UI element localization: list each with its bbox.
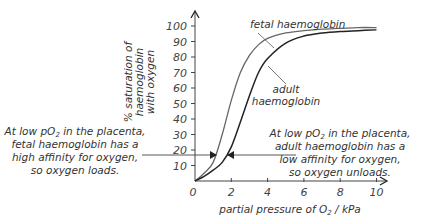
y-tick-label: 80 — [173, 51, 187, 64]
y-tick-label: 100 — [166, 20, 187, 33]
y-tick-label: 30 — [173, 129, 187, 142]
svg-text:so oxygen unloads.: so oxygen unloads. — [289, 166, 391, 178]
svg-text:low affinity for oxygen,: low affinity for oxygen, — [279, 153, 400, 165]
adult-leader-line — [268, 66, 286, 84]
right-annotation: At low pO2 in the placenta, adult haemog… — [228, 127, 410, 178]
y-tick-label: 40 — [173, 113, 187, 126]
y-tick-label: 10 — [173, 160, 187, 173]
oxygen-dissociation-chart: 102030405060708090100 0246810 % saturati… — [0, 0, 432, 220]
x-tick-label: 4 — [264, 186, 271, 199]
x-tick-label: 8 — [337, 186, 344, 199]
x-axis-title: partial pressure of O2 / kPa — [218, 203, 361, 217]
svg-text:At low pO2 in the placenta,: At low pO2 in the placenta, — [4, 125, 146, 139]
svg-text:high affinity for oxygen,: high affinity for oxygen, — [12, 151, 138, 163]
svg-text:fetal haemoglobin has a: fetal haemoglobin has a — [11, 138, 138, 150]
y-tick-label: 70 — [173, 67, 187, 80]
y-tick-label: 50 — [173, 98, 187, 111]
adult-label-line1: adult — [273, 83, 301, 95]
y-axis-title: % saturation of haemoglobin with oxygen — [122, 40, 156, 123]
fetal-leader-line — [258, 33, 274, 48]
svg-text:with oxygen: with oxygen — [144, 50, 156, 114]
x-tick-label: 0 — [190, 186, 197, 199]
adult-label-line2: haemoglobin — [252, 95, 320, 107]
fetal-label: fetal haemoglobin — [250, 18, 345, 30]
y-tick-label: 60 — [173, 82, 187, 95]
svg-text:so oxygen loads.: so oxygen loads. — [31, 164, 119, 176]
y-tick-label: 90 — [173, 36, 187, 49]
x-tick-label: 2 — [228, 186, 235, 199]
x-tick-label: 10 — [370, 186, 384, 199]
x-tick-label: 6 — [300, 186, 307, 199]
x-axis: 0246810 — [190, 177, 388, 199]
svg-text:At low pO2 in the placenta,: At low pO2 in the placenta, — [269, 127, 411, 141]
svg-text:adult haemoglobin has a: adult haemoglobin has a — [275, 140, 405, 152]
y-axis: 102030405060708090100 — [166, 11, 199, 181]
